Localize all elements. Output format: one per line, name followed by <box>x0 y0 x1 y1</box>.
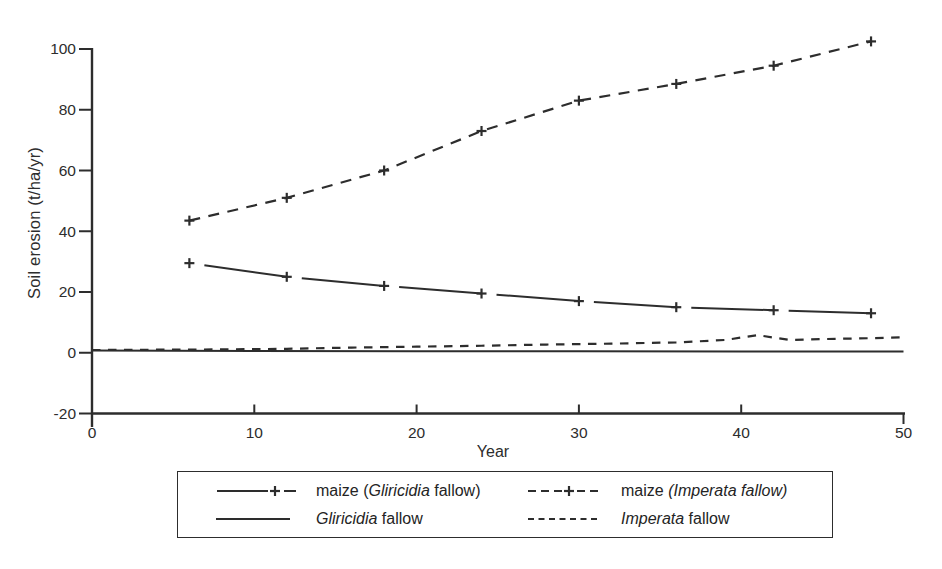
y-tick-label-80: 80 <box>59 101 77 118</box>
x-tick-label-10: 10 <box>246 424 264 441</box>
y-axis-title: Soil erosion (t/ha/yr) <box>25 147 44 299</box>
y-tick-label-60: 60 <box>59 162 77 179</box>
legend-label-gliricidia-fallow: Gliricidia fallow <box>316 510 423 528</box>
series-maize-imperata-fallow <box>184 36 876 225</box>
tick-marks <box>79 49 741 414</box>
legend: maize (Gliricidia fallow)maize (Imperata… <box>177 471 833 538</box>
series-gliricidia-fallow <box>92 351 904 352</box>
x-tick-label-0: 0 <box>88 424 97 441</box>
tick-labels: -2002040608010001020304050 <box>50 40 912 441</box>
legend-label-maize-imperata-fallow: maize (Imperata fallow) <box>621 482 787 500</box>
x-tick-label-50: 50 <box>895 424 913 441</box>
markers-maize-imperata-fallow <box>184 36 876 225</box>
legend-swatch-maize-imperata-fallow <box>528 484 600 498</box>
legend-item-imperata-fallow: Imperata fallow <box>528 509 730 529</box>
legend-item-gliricidia-fallow: Gliricidia fallow <box>216 509 423 529</box>
markers-maize-gliricidia-fallow <box>184 258 876 318</box>
soil-erosion-figure: -2002040608010001020304050 Soil erosion … <box>0 0 942 569</box>
legend-swatch-maize-gliricidia-fallow <box>216 484 296 498</box>
legend-swatch-gliricidia-fallow <box>216 512 290 526</box>
series-maize-gliricidia-fallow <box>184 258 876 318</box>
legend-item-maize-gliricidia-fallow: maize (Gliricidia fallow) <box>216 481 480 501</box>
y-tick-label-100: 100 <box>50 40 76 57</box>
x-tick-label-20: 20 <box>408 424 426 441</box>
x-axis-title: Year <box>477 443 509 461</box>
y-tick-label-20: 20 <box>59 283 77 300</box>
axes <box>91 48 905 427</box>
legend-label-maize-gliricidia-fallow: maize (Gliricidia fallow) <box>316 482 480 500</box>
y-tick-label--20: -20 <box>54 405 77 422</box>
legend-item-maize-imperata-fallow: maize (Imperata fallow) <box>528 481 787 501</box>
x-tick-label-30: 30 <box>570 424 588 441</box>
y-tick-label-40: 40 <box>59 223 77 240</box>
series-imperata-fallow <box>92 335 904 350</box>
x-tick-label-40: 40 <box>733 424 751 441</box>
legend-label-imperata-fallow: Imperata fallow <box>621 510 730 528</box>
legend-swatch-imperata-fallow <box>528 512 600 526</box>
y-tick-label-0: 0 <box>67 344 76 361</box>
